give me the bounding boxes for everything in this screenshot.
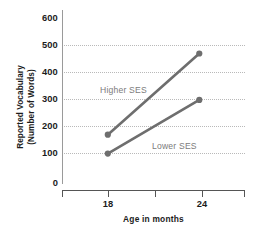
data-point-0-1 xyxy=(196,50,202,56)
series-label-higher-ses: Higher SES xyxy=(100,85,147,95)
data-point-0-0 xyxy=(105,132,111,138)
data-point-1-0 xyxy=(105,151,111,157)
series-label-lower-ses: Lower SES xyxy=(152,141,197,151)
vocabulary-growth-chart: 600 500 400 300 200 100 0 Reported Vocab… xyxy=(0,0,255,235)
data-point-1-1 xyxy=(196,97,202,103)
data-layer xyxy=(0,0,255,235)
